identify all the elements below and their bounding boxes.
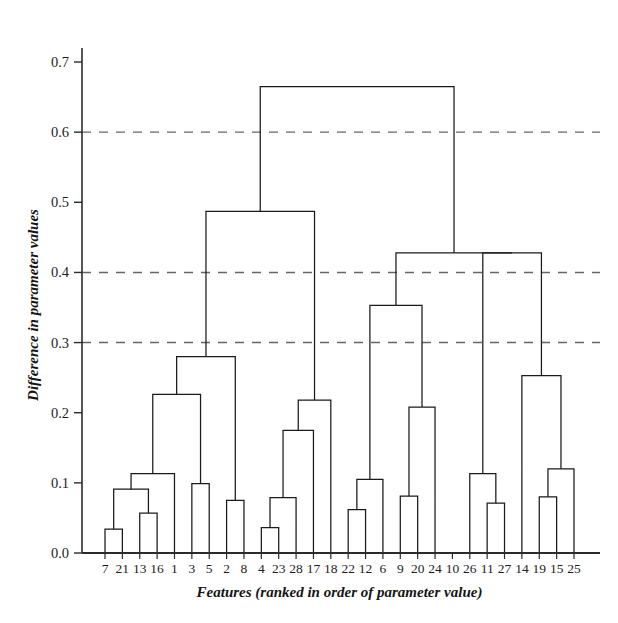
merge-link-m1 [105,529,122,553]
y-tick-label: 0.6 [51,124,69,140]
y-tick-label: 0.1 [51,475,69,491]
merge-link-m25 [396,253,512,306]
x-tick-label-21: 21 [116,561,130,576]
x-tick-label-17: 17 [307,561,321,576]
y-tick-label: 0.7 [51,54,69,70]
x-tick-label-24: 24 [428,561,442,576]
x-tick-label-28: 28 [289,561,303,576]
x-tick-label-13: 13 [133,561,147,576]
x-tick-label-1: 1 [171,561,178,576]
x-tick-label-26: 26 [463,561,477,576]
merge-link-m19 [487,503,504,553]
x-tick-label-20: 20 [411,561,425,576]
x-tick-label-3: 3 [188,561,195,576]
x-tick-label-18: 18 [324,561,338,576]
merge-link-m3 [114,489,149,529]
x-tick-label-25: 25 [567,561,581,576]
merge-link-m10 [270,498,296,553]
y-tick-label: 0.5 [51,194,69,210]
y-tick-label: 0.4 [51,264,70,280]
x-tick-label-2: 2 [223,561,230,576]
x-axis-title: Features (ranked in order of parameter v… [196,584,483,601]
dendrogram-links [105,87,574,553]
merge-link-m5 [192,484,209,553]
x-tick-label-9: 9 [397,561,404,576]
x-tick-label-11: 11 [481,561,494,576]
x-tick-label-5: 5 [206,561,213,576]
merge-link-m23 [522,376,561,553]
merge-link-m15 [357,479,383,553]
merge-link-m8 [177,357,236,501]
x-tick-label-7: 7 [102,561,109,576]
y-axis-ticks: 0.00.10.20.30.40.50.60.7 [51,54,82,561]
merge-link-m18 [370,305,422,479]
merge-link-m7 [227,500,244,553]
merge-link-m21 [539,497,556,553]
merge-link-m2 [140,513,157,553]
x-tick-label-10: 10 [446,561,460,576]
x-tick-label-8: 8 [241,561,248,576]
merge-link-m14 [348,510,365,553]
x-tick-label-19: 19 [533,561,547,576]
merge-link-m24 [483,253,542,474]
merge-link-m13 [206,211,315,400]
merge-link-m26 [260,87,454,253]
x-tick-label-16: 16 [150,561,164,576]
dendrogram-svg: 0.00.10.20.30.40.50.60.77211316135284232… [0,0,618,623]
y-tick-label: 0.0 [51,545,69,561]
merge-link-m20 [470,474,496,553]
gridlines [82,132,600,342]
merge-link-m22 [548,469,574,553]
y-tick-label: 0.3 [51,335,69,351]
x-tick-label-27: 27 [498,561,512,576]
x-axis-ticks: 7211316135284232817182212692024102611271… [102,553,581,576]
merge-link-m17 [409,407,435,553]
x-tick-label-22: 22 [341,561,355,576]
y-axis-title: Difference in parameter values [25,209,41,402]
merge-link-m6 [153,394,201,483]
y-tick-label: 0.2 [51,405,69,421]
merge-link-m12 [298,400,331,553]
dendrogram-figure: 0.00.10.20.30.40.50.60.77211316135284232… [0,0,618,623]
x-tick-label-4: 4 [258,561,265,576]
x-tick-label-15: 15 [550,561,564,576]
merge-link-m16 [400,496,417,553]
x-tick-label-14: 14 [515,561,529,576]
merge-link-m9 [261,528,278,553]
x-tick-label-12: 12 [359,561,373,576]
x-tick-label-23: 23 [272,561,286,576]
x-tick-label-6: 6 [380,561,387,576]
merge-link-m11 [283,430,313,553]
